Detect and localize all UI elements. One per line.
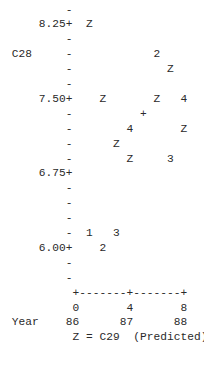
predicted-point-marker: Z (100, 92, 107, 107)
y-axis-minor-tick: - (66, 271, 73, 286)
predicted-point-marker: Z (167, 62, 174, 77)
y-tick-label: 6.75+ (39, 166, 73, 181)
x-axis-label: Year (12, 315, 39, 330)
y-axis-minor-tick: - (66, 77, 73, 92)
plot-glyph: 1 (86, 226, 93, 241)
plot-glyph: 86 (66, 315, 80, 330)
y-axis-minor-tick: - (66, 122, 73, 137)
plot-glyph: 0 (73, 301, 80, 316)
character-scatter-plot: -8.25+Z-C28-2-Z-7.50+ZZ4-+-4Z-Z-Z36.75+-… (0, 0, 204, 366)
predicted-point-marker: Z (154, 92, 161, 107)
plot-glyph: 88 (174, 315, 188, 330)
y-axis-minor-tick: - (66, 226, 73, 241)
overlap-point-marker: + (140, 107, 147, 122)
plot-glyph: 2 (100, 241, 107, 256)
y-axis-minor-tick: - (66, 107, 73, 122)
predicted-point-marker: Z (127, 152, 134, 167)
legend-text: Z = C29 (Predicted) (73, 330, 205, 345)
predicted-point-marker: Z (113, 137, 120, 152)
y-tick-label: 8.25+ (39, 17, 73, 32)
plot-glyph: 4 (127, 122, 134, 137)
predicted-point-marker: Z (86, 17, 93, 32)
y-axis-minor-tick: - (66, 256, 73, 271)
x-axis-line: +-------+-------+ (73, 286, 188, 301)
y-axis-minor-tick: - (66, 181, 73, 196)
y-axis-minor-tick: - (66, 152, 73, 167)
y-axis-minor-tick: - (66, 47, 73, 62)
y-axis-minor-tick: - (66, 196, 73, 211)
plot-glyph: 3 (167, 152, 174, 167)
plot-glyph: 8 (181, 301, 188, 316)
predicted-point-marker: Z (181, 122, 188, 137)
plot-glyph: 4 (181, 92, 188, 107)
y-axis-minor-tick: - (66, 62, 73, 77)
plot-glyph: 4 (127, 301, 134, 316)
y-tick-label: 7.50+ (39, 92, 73, 107)
plot-glyph: 3 (113, 226, 120, 241)
y-axis-minor-tick: - (66, 211, 73, 226)
y-axis-minor-tick: - (66, 3, 73, 18)
plot-glyph: 2 (154, 47, 161, 62)
plot-glyph: 87 (120, 315, 134, 330)
y-tick-label: 6.00+ (39, 241, 73, 256)
y-axis-minor-tick: - (66, 137, 73, 152)
y-axis-minor-tick: - (66, 32, 73, 47)
y-axis-label: C28 (12, 47, 32, 62)
